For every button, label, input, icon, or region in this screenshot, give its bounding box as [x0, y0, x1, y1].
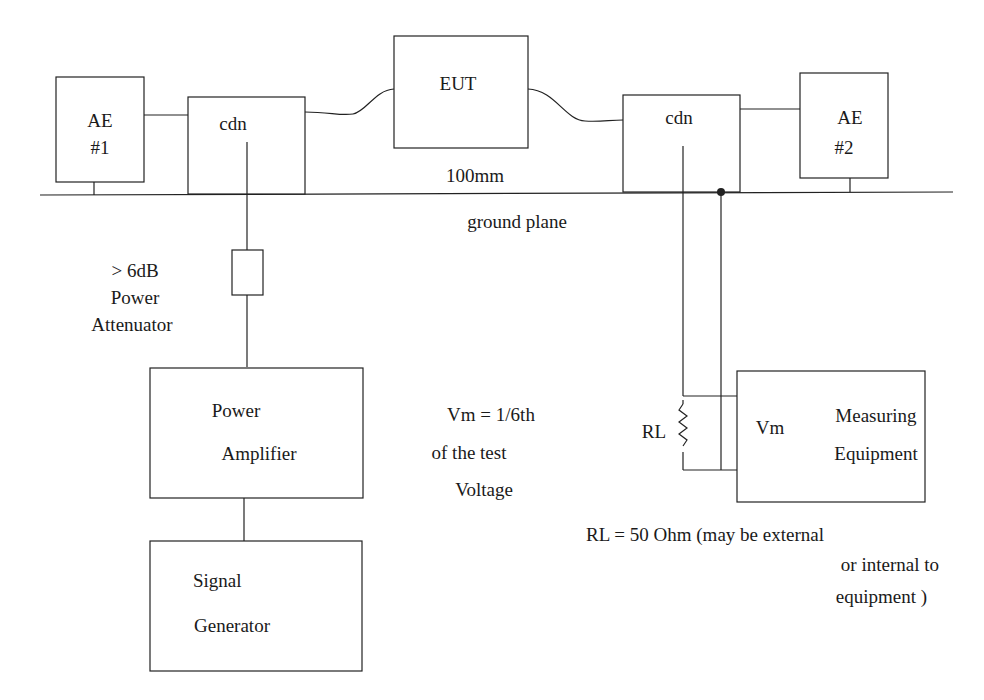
power-amplifier-line2: Amplifier [222, 443, 298, 464]
attenuator-block [232, 250, 263, 295]
cable-cdn-eut-left [305, 89, 394, 115]
measuring-label: Measuring [835, 405, 917, 426]
ae2-label: AE [837, 107, 862, 128]
equipment-label: Equipment [834, 443, 918, 464]
height-label: 100mm [446, 165, 504, 186]
rl-note-line3: equipment ) [836, 586, 927, 608]
ae2-number: #2 [835, 137, 854, 158]
ground-plane-label: ground plane [467, 211, 567, 232]
cable-eut-cdn-right [528, 89, 623, 121]
rl-label: RL [642, 421, 666, 442]
rl-note-line2: or internal to [841, 554, 939, 575]
vm-note-line2: of the test [432, 442, 508, 463]
power-amplifier-line1: Power [212, 400, 261, 421]
ground-junction-dot [717, 188, 725, 196]
test-setup-diagram: AE #1 cdn EUT 100mm ground plane cdn AE … [0, 0, 984, 700]
eut-label: EUT [440, 73, 477, 94]
rl-note-line1: RL = 50 Ohm (may be external [586, 524, 824, 546]
signal-generator-line2: Generator [194, 615, 271, 636]
cdn-right-label: cdn [665, 107, 693, 128]
vm-note-line1: Vm = 1/6th [447, 404, 535, 425]
attenuator-label: Attenuator [91, 314, 173, 335]
rl-resistor-icon [679, 404, 687, 446]
cdn-left-label: cdn [219, 113, 247, 134]
ae1-number: #1 [91, 137, 110, 158]
signal-generator-line1: Signal [193, 570, 242, 591]
attenuator-power-label: Power [111, 287, 160, 308]
attenuator-db-label: > 6dB [111, 260, 158, 281]
signal-generator-block [150, 541, 362, 671]
vm-label: Vm [756, 417, 785, 438]
ground-plane-line [40, 192, 953, 195]
power-amplifier-block [150, 368, 363, 498]
ae1-label: AE [87, 110, 112, 131]
vm-note-line3: Voltage [455, 479, 513, 500]
